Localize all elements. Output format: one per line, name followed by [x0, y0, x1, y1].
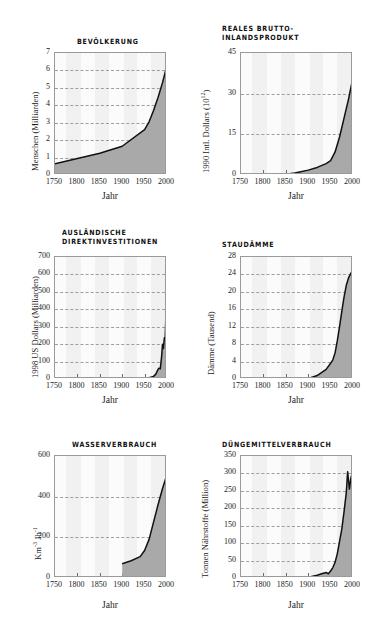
background-band [337, 456, 352, 576]
x-tick-label: 1950 [317, 581, 343, 589]
chart-title: AUSLÄNDISCHE DIREKTINVESTITIONEN [62, 228, 158, 246]
y-tick-label: 200 [28, 339, 50, 347]
x-tick-label: 1900 [294, 382, 320, 390]
y-tick-label: 300 [28, 322, 50, 330]
x-tickmark [145, 170, 146, 173]
background-band [151, 257, 166, 377]
background-band [124, 53, 136, 173]
series-area [55, 456, 166, 577]
background-band [124, 456, 136, 576]
background-band [66, 257, 81, 377]
x-tickmark [122, 170, 123, 173]
x-tickmark [77, 170, 78, 173]
chart-title: DÜNGEMITTELVERBRAUCH [222, 440, 331, 449]
y-tick-label: 24 [214, 269, 236, 277]
x-axis-label: Jahr [90, 191, 130, 201]
x-tick-label: 2000 [339, 581, 365, 589]
plot-area [240, 455, 352, 577]
chart-title: WASSERVERBRAUCH [72, 440, 157, 449]
gridline [55, 497, 165, 498]
background-band [124, 257, 136, 377]
gridline [55, 70, 165, 71]
y-tick-label: 0 [214, 573, 236, 581]
x-axis-label: Jahr [276, 395, 316, 405]
gridline [241, 134, 351, 135]
background-band [252, 53, 267, 173]
x-tickmark [308, 573, 309, 576]
y-tick-label: 4 [214, 357, 236, 365]
series-area [55, 53, 166, 174]
y-tick-label: 200 [214, 503, 236, 511]
gridline [55, 123, 165, 124]
chart-panel: REALES BRUTTO- INLANDSPRODUKT01530451750… [0, 0, 376, 622]
x-tick-label: 1900 [108, 581, 134, 589]
y-tick-label: 250 [214, 486, 236, 494]
chart-title: REALES BRUTTO- INLANDSPRODUKT [222, 24, 299, 42]
gridline [241, 491, 351, 492]
y-tick-label: 0 [28, 374, 50, 382]
background-band [337, 53, 352, 173]
gridline [241, 543, 351, 544]
background-band [252, 456, 267, 576]
gridline [55, 327, 165, 328]
x-tick-label: 1750 [227, 178, 253, 186]
x-tick-label: 1750 [227, 382, 253, 390]
x-tick-label: 1850 [86, 382, 112, 390]
x-tickmark [286, 374, 287, 377]
y-tick-label: 350 [214, 451, 236, 459]
gridline [55, 309, 165, 310]
plot-area [240, 256, 352, 378]
y-tick-label: 200 [28, 532, 50, 540]
x-tickmark [286, 170, 287, 173]
x-tick-label: 1800 [249, 382, 275, 390]
y-tick-label: 15 [214, 129, 236, 137]
y-axis-label: Km-3 Jh-1 [32, 527, 43, 560]
x-tick-label: 1850 [86, 581, 112, 589]
x-axis-label: Jahr [90, 600, 130, 610]
x-tick-label: 1850 [86, 178, 112, 186]
series-area [241, 53, 352, 174]
y-tick-label: 500 [28, 287, 50, 295]
y-tick-label: 8 [214, 339, 236, 347]
y-tick-label: 100 [28, 357, 50, 365]
x-tickmark [100, 573, 101, 576]
y-axis-label-tail: ) [201, 90, 211, 93]
y-tick-label: 600 [28, 269, 50, 277]
background-band [281, 53, 294, 173]
x-tick-label: 1900 [108, 178, 134, 186]
background-band [66, 53, 81, 173]
background-band [310, 53, 322, 173]
gridline [241, 292, 351, 293]
y-tick-label: 400 [28, 304, 50, 312]
gridline [55, 344, 165, 345]
x-tickmark [331, 374, 332, 377]
x-tickmark [263, 170, 264, 173]
gridline [55, 140, 165, 141]
x-tick-label: 1900 [108, 382, 134, 390]
background-band [281, 257, 294, 377]
x-tickmark [308, 170, 309, 173]
x-tickmark [263, 573, 264, 576]
gridline [241, 274, 351, 275]
series-area [241, 257, 352, 378]
y-tick-label: 0 [214, 170, 236, 178]
y-tick-label: 3 [28, 118, 50, 126]
y-tick-label: 1 [28, 153, 50, 161]
background-band [281, 456, 294, 576]
y-axis-label-text: 1990 Intl. Dollars (10 [201, 99, 211, 173]
y-tick-label: 600 [28, 451, 50, 459]
y-tick-label: 50 [214, 556, 236, 564]
background-band [252, 257, 267, 377]
x-tick-label: 2000 [153, 382, 179, 390]
background-band [95, 53, 108, 173]
x-tick-label: 1750 [227, 581, 253, 589]
x-tick-label: 2000 [153, 178, 179, 186]
x-tickmark [100, 374, 101, 377]
y-tick-label: 12 [214, 322, 236, 330]
gridline [55, 274, 165, 275]
background-band [95, 257, 108, 377]
x-tickmark [77, 374, 78, 377]
series-area [55, 257, 166, 378]
x-tickmark [122, 374, 123, 377]
x-tick-label: 1900 [294, 178, 320, 186]
